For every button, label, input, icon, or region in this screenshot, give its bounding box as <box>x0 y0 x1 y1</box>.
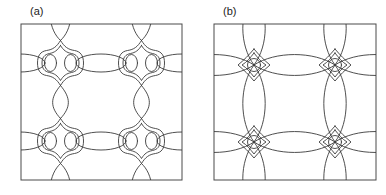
panel-b-frame <box>214 24 376 180</box>
panel-a: (a) <box>0 0 193 195</box>
panel-b-plot <box>213 23 377 181</box>
panel-a-plot <box>20 23 183 181</box>
figure-root: (a) <box>0 0 386 195</box>
panel-a-frame <box>21 24 182 180</box>
panel-b-label: (b) <box>223 5 236 18</box>
panel-a-label: (a) <box>30 5 43 18</box>
panel-b: (b) <box>193 0 386 195</box>
